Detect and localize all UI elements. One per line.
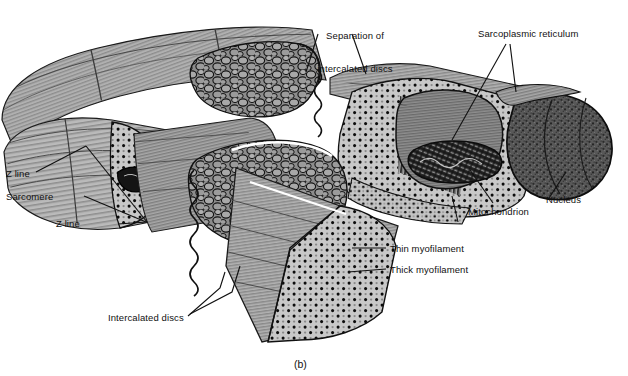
figure-caption: (b) bbox=[294, 358, 307, 370]
mitochondrion-shape bbox=[408, 141, 501, 183]
label-separation-line1: Separation of bbox=[296, 30, 414, 41]
label-nucleus: Nucleus bbox=[546, 194, 581, 205]
label-separation-of-intercalated-discs: Separation of intercalated discs bbox=[296, 8, 414, 96]
label-sarcomere: Sarcomere bbox=[6, 191, 53, 202]
label-mitochondrion: Mitochondrion bbox=[468, 206, 529, 217]
label-z-line-top: Z line bbox=[6, 168, 30, 179]
label-thin-myofilament: Thin myofilament bbox=[390, 243, 464, 254]
label-separation-line2: intercalated discs bbox=[296, 63, 414, 74]
label-sarcoplasmic-reticulum: Sarcoplasmic reticulum bbox=[478, 28, 578, 39]
label-thick-myofilament: Thick myofilament bbox=[390, 264, 468, 275]
label-z-line-bottom: Z line bbox=[56, 218, 80, 229]
figure-cardiac-muscle: Separation of intercalated discs Sarcopl… bbox=[0, 0, 628, 376]
label-intercalated-discs: Intercalated discs bbox=[108, 312, 184, 323]
